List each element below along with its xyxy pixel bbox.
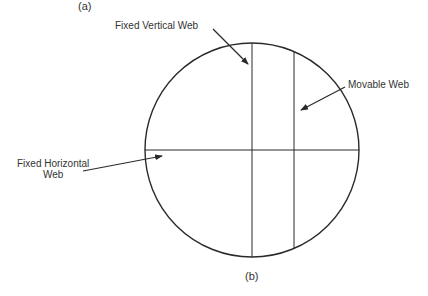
arrow-fixed-horizontal bbox=[83, 156, 162, 171]
caption-b: (b) bbox=[245, 270, 258, 282]
crosshair-reticle-diagram bbox=[0, 0, 428, 296]
arrow-movable bbox=[301, 87, 345, 110]
arrow-fixed-vertical bbox=[213, 29, 248, 64]
